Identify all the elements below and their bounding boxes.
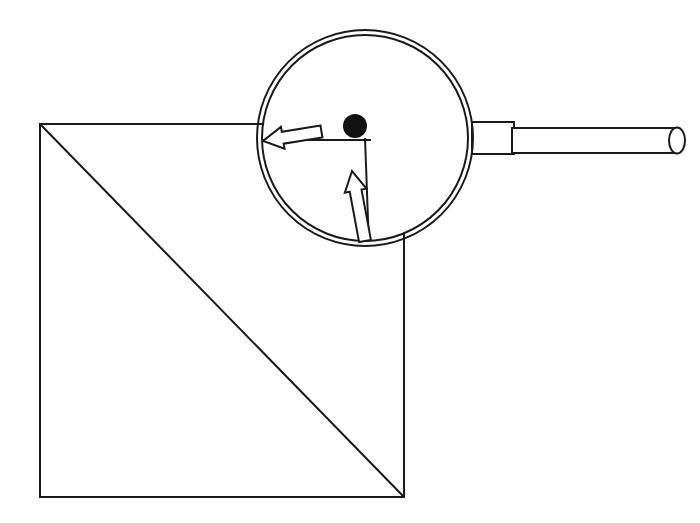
magnifier-handle-neck (472, 122, 514, 154)
figure-canvas: Start Finish (0, 0, 700, 523)
magnifier-handle-group (472, 122, 685, 154)
magnifier-handle-end-cap (669, 128, 685, 154)
finish-label: Finish (0, 0, 67, 5)
line-drawing-illustration: Start Finish (0, 0, 700, 523)
stitch-start-point-dot (343, 114, 367, 138)
magnifier-handle-shaft (512, 128, 677, 153)
